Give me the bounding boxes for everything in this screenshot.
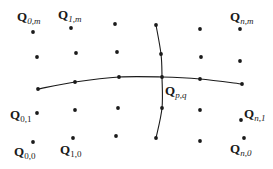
- control-point: [198, 27, 202, 31]
- control-point: [36, 87, 40, 91]
- control-point: [238, 27, 242, 31]
- control-point: [35, 111, 39, 115]
- control-point-grid-diagram: Q0,m Q1,m Qn,m Q0,1 Q0,0 Q1,0 Qn,1 Qn,0 …: [0, 0, 273, 169]
- control-point: [198, 77, 202, 81]
- control-point: [159, 52, 163, 56]
- label-q0m: Q0,m: [17, 9, 41, 26]
- control-point: [74, 51, 78, 55]
- control-point: [71, 136, 75, 140]
- control-point: [154, 136, 158, 140]
- control-point: [240, 82, 244, 86]
- control-points: [31, 22, 246, 144]
- control-point: [73, 108, 77, 112]
- control-point: [160, 106, 164, 110]
- control-point: [199, 55, 203, 59]
- label-qpq: Qp,q: [165, 83, 187, 100]
- control-point: [31, 30, 35, 34]
- point-labels: Q0,m Q1,m Qn,m Q0,1 Q0,0 Q1,0 Qn,1 Qn,0 …: [10, 7, 265, 161]
- control-point: [113, 22, 117, 26]
- label-q01: Q0,1: [10, 107, 31, 124]
- control-point: [115, 50, 119, 54]
- isoparametric-curves: [38, 25, 242, 138]
- control-point: [31, 140, 35, 144]
- control-point: [117, 75, 121, 79]
- control-point: [160, 75, 164, 79]
- label-qn0: Qn,0: [230, 141, 252, 158]
- label-q10: Q1,0: [60, 142, 82, 159]
- label-q00: Q0,0: [14, 144, 36, 161]
- control-point: [238, 59, 242, 63]
- label-q1m: Q1,m: [58, 7, 82, 24]
- label-qnm: Qn,m: [230, 9, 254, 26]
- control-point: [198, 139, 202, 143]
- label-qn1: Qn,1: [244, 106, 265, 123]
- control-point: [69, 26, 73, 30]
- control-point: [154, 23, 158, 27]
- control-point: [242, 136, 246, 140]
- control-point: [239, 118, 243, 122]
- diagram-svg: Q0,m Q1,m Qn,m Q0,1 Q0,0 Q1,0 Qn,1 Qn,0 …: [0, 0, 273, 169]
- control-point: [114, 134, 118, 138]
- control-point: [35, 55, 39, 59]
- control-point: [116, 106, 120, 110]
- horizontal-curve: [38, 77, 242, 89]
- control-point: [73, 80, 77, 84]
- vertical-curve: [156, 25, 162, 138]
- control-point: [198, 108, 202, 112]
